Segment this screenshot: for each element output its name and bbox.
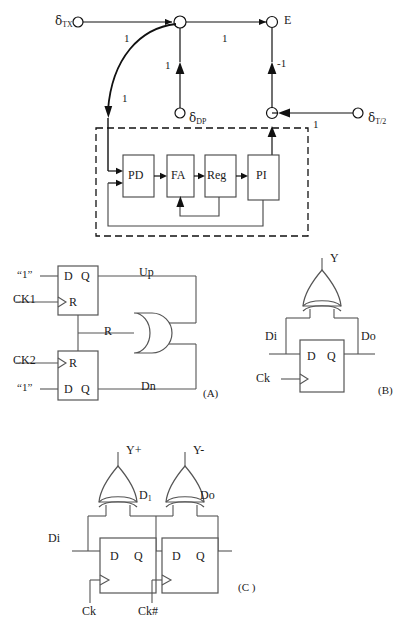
figure-vectors <box>0 0 409 621</box>
panel-a-top-q-pin: Q <box>81 270 90 282</box>
panel-b-y-label: Y <box>330 252 339 264</box>
block-label-fa: FA <box>171 169 185 181</box>
sfg-arrowhead-fb <box>268 62 277 74</box>
panel-c-yminus-label: Y- <box>193 444 204 456</box>
panel-c-caption: (C ) <box>238 582 255 593</box>
loop-arrowhead-pd-in-top <box>116 168 123 174</box>
panel-b-di-label: Di <box>265 330 277 342</box>
panel-b-flipflop[interactable] <box>300 340 344 392</box>
panel-c-ck-label: Ck <box>82 605 96 617</box>
sfg-arrowhead-dp <box>176 62 185 74</box>
figure-canvas: δTX E δDP δT/2 1 1 1 1 -1 1 PD FA Reg PI… <box>0 0 409 621</box>
sfg-weight-sum-to-e: 1 <box>222 33 228 44</box>
sfg-label-dp: δDP <box>189 112 206 126</box>
panel-b-q-pin: Q <box>327 350 336 362</box>
panel-a-top-d-pin: D <box>64 270 73 282</box>
sfg-weight-dp: 1 <box>165 60 171 71</box>
panel-c-di-label: Di <box>48 532 60 544</box>
panel-c-flipflop-right[interactable] <box>162 538 218 593</box>
sfg-node-e[interactable] <box>267 17 278 28</box>
panel-c-right-d-pin: D <box>172 550 181 562</box>
panel-a-reset-label: R <box>104 325 112 337</box>
sfg-weight-fb: -1 <box>277 58 286 69</box>
panel-c-flipflop-left[interactable] <box>100 538 156 593</box>
panel-c-mid-label: D1 <box>139 489 152 503</box>
panel-b-ck-label: Ck <box>256 372 270 384</box>
panel-a-dn-label: Dn <box>141 380 156 392</box>
panel-a-bottom-r-pin: R <box>69 357 77 369</box>
sfg-node-sum[interactable] <box>174 16 186 28</box>
block-label-pi: PI <box>256 169 267 181</box>
panel-a-and-gate[interactable] <box>134 313 172 353</box>
sfg-arrowhead-curve <box>104 106 112 118</box>
block-label-pd: PD <box>128 169 143 181</box>
loop-arrowhead-fa-in <box>160 173 167 179</box>
panel-a-ck2-label: CK2 <box>13 354 36 366</box>
panel-c-yplus-label: Y+ <box>126 444 141 456</box>
sfg-node-tx[interactable] <box>73 17 83 27</box>
loop-arrowhead-pd-in-bottom <box>116 180 123 186</box>
sfg-weight-tx-to-sum: 1 <box>124 33 130 44</box>
sfg-node-dp[interactable] <box>175 108 185 118</box>
panel-c-ckhash-label: Ck# <box>138 605 158 617</box>
panel-c-left-q-pin: Q <box>134 550 143 562</box>
loop-arrowhead-fa-accum <box>176 196 184 207</box>
sfg-arrowhead-t2 <box>278 109 290 118</box>
panel-a-caption: (A) <box>203 388 218 399</box>
panel-a-up-label: Up <box>139 266 154 278</box>
block-label-reg: Reg <box>207 169 226 181</box>
panel-a-ck1-label: CK1 <box>13 293 36 305</box>
sfg-node-t2[interactable] <box>353 108 363 118</box>
loop-wire-reg-feedback-to-fa <box>180 197 219 216</box>
panel-a-top-r-pin: R <box>69 296 77 308</box>
panel-c-right-q-pin: Q <box>196 550 205 562</box>
sfg-label-e: E <box>284 14 291 26</box>
loop-arrowhead-pi-in <box>241 173 248 179</box>
panel-b-do-label: Do <box>361 330 376 342</box>
panel-c-left-d-pin: D <box>110 550 119 562</box>
panel-a-bottom-d-pin: D <box>64 383 73 395</box>
loop-arrowhead-reg-in <box>198 173 205 179</box>
panel-a-bottom-d-input-label: “1” <box>17 382 32 393</box>
sfg-weight-t2: 1 <box>313 119 319 130</box>
sfg-label-t2: δT/2 <box>368 112 386 126</box>
panel-b-caption: (B) <box>378 385 393 396</box>
panel-b-d-pin: D <box>307 350 316 362</box>
sfg-label-tx: δTX <box>55 15 73 29</box>
panel-a-bottom-q-pin: Q <box>81 383 90 395</box>
sfg-weight-curve: 1 <box>122 93 128 104</box>
panel-c-do-label: Do <box>200 489 215 501</box>
panel-a-top-d-input-label: “1” <box>17 269 32 280</box>
